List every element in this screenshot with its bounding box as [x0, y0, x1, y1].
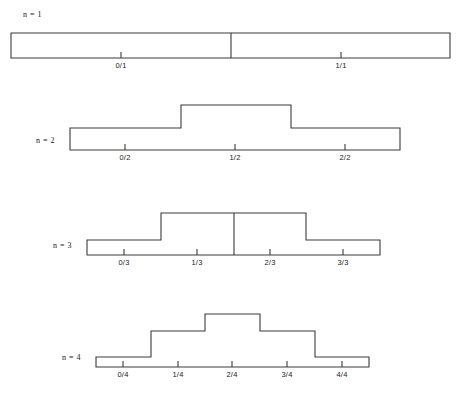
tick-label-n4-4: 4/4 — [336, 370, 347, 379]
tick-label-n4-0: 0/4 — [117, 370, 128, 379]
tick-label-n4-1: 1/4 — [172, 370, 183, 379]
histogram-figure: n = 1 0/1 1/1 n = 2 0/2 1/2 2/2 n = 3 — [0, 0, 471, 400]
bar-outline-n4 — [96, 314, 369, 367]
tick-label-n4-3: 3/4 — [281, 370, 292, 379]
tick-label-n4-2: 2/4 — [226, 370, 237, 379]
histogram-plot-n4 — [0, 0, 471, 400]
